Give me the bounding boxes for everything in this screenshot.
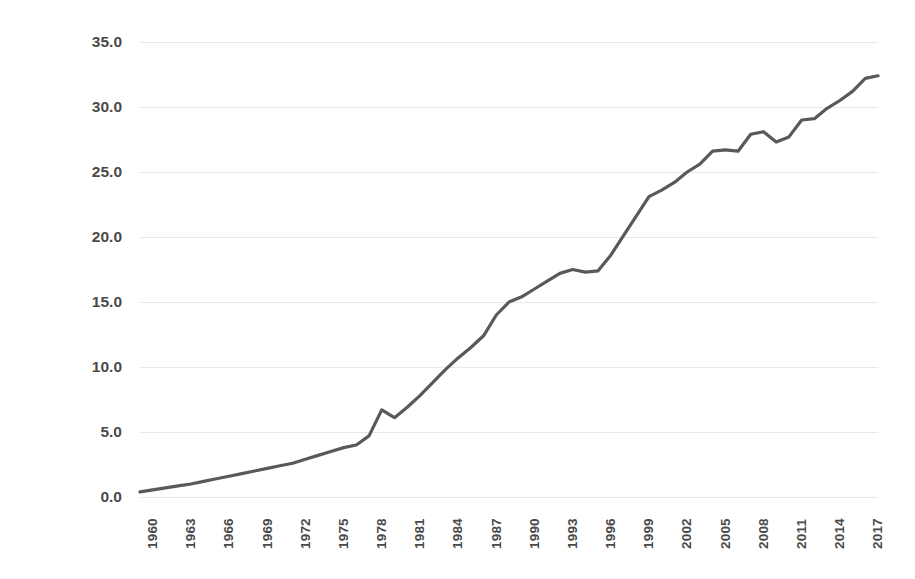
y-axis-tick-labels: 0.05.010.015.020.025.030.035.0 [60, 42, 122, 497]
x-axis-tick-label: 1987 [489, 518, 504, 549]
y-axis-tick-label: 35.0 [60, 33, 122, 51]
y-axis-tick-label: 25.0 [60, 163, 122, 181]
x-axis-tick-label: 1969 [260, 518, 275, 549]
x-axis-tick-label: 1996 [603, 518, 618, 549]
y-axis-tick-label: 15.0 [60, 293, 122, 311]
x-axis-tick-label: 2011 [794, 519, 809, 549]
x-axis-tick-label: 2005 [718, 518, 733, 549]
data-series-plastic-waste [140, 42, 878, 497]
y-axis-tick-label: 0.0 [60, 488, 122, 506]
x-axis-tick-label: 1993 [565, 518, 580, 549]
x-axis-tick-label: 1966 [221, 518, 236, 549]
x-axis-tick-label: 1978 [374, 518, 389, 549]
y-axis-tick-label: 20.0 [60, 228, 122, 246]
y-axis-tick-label: 10.0 [60, 358, 122, 376]
series-polyline [140, 76, 878, 492]
x-axis-tick-label: 2008 [756, 518, 771, 549]
y-axis-tick-label: 5.0 [60, 423, 122, 441]
gridline [140, 497, 878, 498]
x-axis-tick-labels: 1960196319661969197219751978198119841987… [140, 503, 878, 579]
plastic-waste-line-chart: Plastic Waste (MMT) 0.05.010.015.020.025… [0, 0, 915, 579]
x-axis-tick-label: 1990 [527, 518, 542, 549]
x-axis-tick-label: 1972 [298, 518, 313, 549]
x-axis-tick-label: 1984 [450, 518, 465, 549]
plot-area [140, 42, 878, 497]
x-axis-tick-label: 1981 [412, 518, 427, 549]
x-axis-tick-label: 2002 [679, 518, 694, 549]
x-axis-tick-label: 1999 [641, 518, 656, 549]
x-axis-tick-label: 1975 [336, 518, 351, 549]
x-axis-tick-label: 2017 [870, 518, 885, 549]
y-axis-tick-label: 30.0 [60, 98, 122, 116]
x-axis-tick-label: 1963 [183, 518, 198, 549]
x-axis-tick-label: 2014 [832, 518, 847, 549]
x-axis-tick-label: 1960 [145, 518, 160, 549]
